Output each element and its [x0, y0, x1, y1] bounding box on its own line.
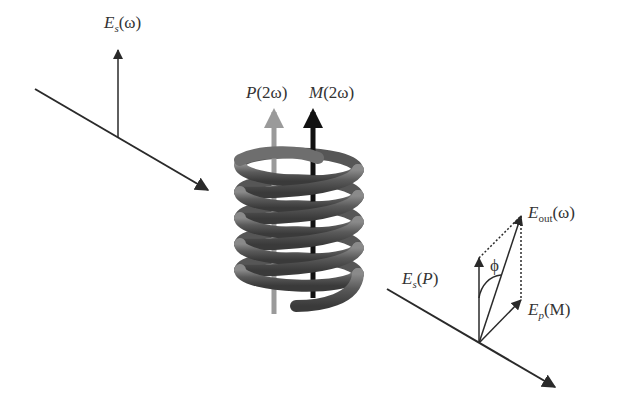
label-phi: ϕ: [490, 257, 499, 274]
label-es-omega: Es(ω): [104, 14, 141, 31]
diagram-canvas: Es(ω) P(2ω) M(2ω) Eout(ω) Es(P) Ep(M) ϕ: [0, 0, 618, 412]
label-ep-m: Ep(M): [528, 301, 570, 318]
ep-m-vector: [479, 300, 521, 343]
helix-group: [240, 112, 358, 314]
eout-vector: [479, 216, 521, 343]
label-eout-omega: Eout(ω): [528, 204, 575, 221]
incident-beam: [35, 50, 208, 190]
label-p-2omega: P(2ω): [246, 84, 287, 101]
diagram-graphics: [0, 0, 618, 412]
label-m-2omega: M(2ω): [309, 84, 354, 101]
label-es-p: Es(P): [402, 270, 438, 287]
